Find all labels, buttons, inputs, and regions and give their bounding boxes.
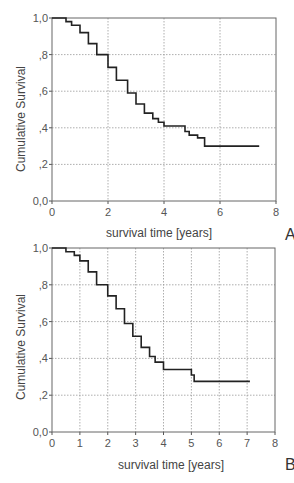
y-tick-label: ,2 bbox=[39, 158, 48, 170]
x-tick-label: 0 bbox=[49, 437, 55, 449]
km-plot-b: 0123456780,0,2,4,6,81,0 bbox=[0, 230, 294, 483]
y-tick-label: ,8 bbox=[39, 279, 48, 291]
y-axis-label-b: Cumulative Survival bbox=[14, 294, 28, 400]
x-tick-label: 8 bbox=[272, 437, 278, 449]
x-axis-label-b: survival time [years] bbox=[118, 458, 224, 472]
x-tick-label: 6 bbox=[216, 437, 222, 449]
survival-curve bbox=[52, 248, 250, 381]
chart-panel-a: 024680,0,2,4,6,81,0 Cumulative Survival … bbox=[0, 0, 294, 240]
x-tick-label: 3 bbox=[133, 437, 139, 449]
y-tick-label: ,6 bbox=[39, 316, 48, 328]
y-axis-label-a: Cumulative Survival bbox=[14, 66, 28, 172]
x-tick-label: 2 bbox=[105, 206, 111, 218]
y-tick-label: 1,0 bbox=[33, 12, 48, 24]
km-plot-a: 024680,0,2,4,6,81,0 bbox=[0, 0, 294, 240]
y-tick-label: 0,0 bbox=[33, 195, 48, 207]
survival-curve bbox=[52, 18, 259, 146]
x-tick-label: 0 bbox=[49, 206, 55, 218]
chart-panel-b: 0123456780,0,2,4,6,81,0 Cumulative Survi… bbox=[0, 230, 294, 483]
y-tick-label: ,4 bbox=[39, 122, 48, 134]
x-tick-label: 1 bbox=[77, 437, 83, 449]
panel-label-b: B bbox=[285, 456, 294, 474]
x-tick-label: 6 bbox=[217, 206, 223, 218]
x-tick-label: 8 bbox=[273, 206, 279, 218]
y-tick-label: 0,0 bbox=[33, 426, 48, 438]
y-tick-label: ,8 bbox=[39, 49, 48, 61]
y-tick-label: ,2 bbox=[39, 389, 48, 401]
x-tick-label: 4 bbox=[161, 206, 167, 218]
x-tick-label: 4 bbox=[160, 437, 166, 449]
x-tick-label: 2 bbox=[105, 437, 111, 449]
y-tick-label: 1,0 bbox=[33, 242, 48, 254]
y-tick-label: ,6 bbox=[39, 85, 48, 97]
y-tick-label: ,4 bbox=[39, 352, 48, 364]
x-tick-label: 7 bbox=[244, 437, 250, 449]
x-tick-label: 5 bbox=[188, 437, 194, 449]
